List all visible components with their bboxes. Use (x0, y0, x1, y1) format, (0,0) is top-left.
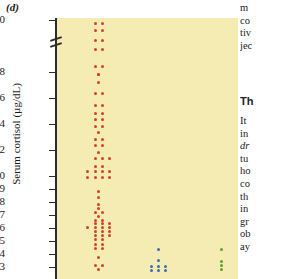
data-point (94, 211, 97, 214)
text-line: m (240, 2, 281, 15)
y-tick-label: 9 (0, 183, 5, 194)
y-tick-mark (49, 124, 55, 125)
y-tick-label: 8 (0, 196, 5, 207)
data-point (101, 234, 104, 237)
data-point (97, 81, 100, 84)
data-point (101, 247, 104, 250)
data-point (101, 238, 104, 241)
panel-label: (d) (6, 1, 19, 13)
y-tick-mark (49, 202, 55, 203)
text-line: It (240, 115, 281, 128)
data-point (94, 219, 97, 222)
y-tick-mark (49, 228, 55, 229)
text-line: in (240, 128, 281, 141)
y-tick-label: 3 (0, 261, 5, 272)
y-tick-label: 14 (0, 118, 5, 129)
data-point (101, 104, 104, 107)
y-tick-mark (49, 215, 55, 216)
text-line: in (240, 203, 281, 216)
y-tick-mark (49, 241, 55, 242)
y-tick-label: 16 (0, 92, 5, 103)
data-point (97, 207, 100, 210)
data-point (101, 211, 104, 214)
data-point (101, 138, 104, 141)
y-tick-label: 30 (0, 14, 5, 25)
data-point (108, 234, 111, 237)
data-point (101, 165, 104, 168)
y-tick-label: 4 (0, 248, 5, 259)
data-point (94, 39, 97, 42)
text-line: dr (240, 140, 281, 153)
y-tick-mark (49, 267, 55, 268)
data-point (94, 264, 97, 267)
data-point (94, 234, 97, 237)
data-point (94, 165, 97, 168)
data-point (94, 104, 97, 107)
y-tick-label: 10 (0, 170, 5, 181)
figure-panel-d: (d) 3018161412109876543 Serum cortisol (… (0, 0, 238, 279)
y-axis-title: Serum cortisol (µg/dL) (10, 34, 22, 234)
paragraph-one: mcotivjec (240, 2, 281, 52)
data-point (94, 65, 97, 68)
plot-area (57, 18, 238, 279)
data-point (101, 219, 104, 222)
text-line: jec (240, 40, 281, 53)
data-point (108, 176, 111, 179)
section-heading: Th (240, 95, 281, 108)
y-tick-label: 6 (0, 222, 5, 233)
y-tick-mark (49, 72, 55, 73)
text-line: ob (240, 228, 281, 241)
y-tick-mark (49, 189, 55, 190)
text-line: tiv (240, 27, 281, 40)
body-text-column: mcotivjec Th Itindrtuhocothingrobay (240, 0, 281, 279)
y-tick-label: 5 (0, 235, 5, 246)
data-point (94, 48, 97, 51)
y-tick-label: 12 (0, 144, 5, 155)
data-point (101, 22, 104, 25)
data-point (101, 29, 104, 32)
data-point (94, 230, 97, 233)
text-line: ay (240, 241, 281, 254)
text-line: tu (240, 153, 281, 166)
data-point (101, 125, 104, 128)
data-point (101, 243, 104, 246)
text-line: co (240, 178, 281, 191)
text-line: ho (240, 165, 281, 178)
y-tick-label: 7 (0, 209, 5, 220)
data-point (94, 112, 97, 115)
text-line: gr (240, 216, 281, 229)
text-line: co (240, 15, 281, 28)
data-point (94, 29, 97, 32)
data-point (94, 243, 97, 246)
data-point (157, 259, 160, 262)
data-point (101, 65, 104, 68)
data-point (94, 22, 97, 25)
data-point (101, 39, 104, 42)
y-tick-mark (49, 150, 55, 151)
data-point (150, 269, 153, 272)
paragraph-two: Itindrtuhocothingrobay (240, 115, 281, 254)
data-point (101, 48, 104, 51)
y-tick-label: 18 (0, 66, 5, 77)
data-point (94, 238, 97, 241)
y-tick-mark (49, 176, 55, 177)
data-point (94, 226, 97, 229)
data-point (94, 125, 97, 128)
data-point (94, 247, 97, 250)
text-line: th (240, 191, 281, 204)
y-tick-mark (49, 254, 55, 255)
data-point (94, 138, 97, 141)
y-tick-mark (49, 98, 55, 99)
y-axis-line (55, 18, 57, 279)
data-point (94, 176, 97, 179)
data-point (101, 112, 104, 115)
data-point (101, 264, 104, 267)
data-point (101, 176, 104, 179)
y-tick-mark (49, 20, 55, 21)
data-point (101, 230, 104, 233)
data-point (97, 215, 100, 218)
